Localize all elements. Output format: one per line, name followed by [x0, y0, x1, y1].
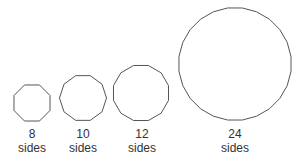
- octagon-shape: [14, 85, 50, 121]
- sides-text: sides: [58, 141, 108, 155]
- side-count: 8: [7, 127, 57, 141]
- side-count: 10: [58, 127, 108, 141]
- sides-text: sides: [210, 141, 260, 155]
- dodecagon-shape: [113, 65, 168, 120]
- label-10-sides: 10 sides: [58, 127, 108, 155]
- icositetragon-shape: [179, 8, 291, 120]
- label-8-sides: 8 sides: [7, 127, 57, 155]
- sides-text: sides: [117, 141, 167, 155]
- decagon-shape: [60, 76, 107, 121]
- side-count: 12: [117, 127, 167, 141]
- side-count: 24: [210, 127, 260, 141]
- sides-text: sides: [7, 141, 57, 155]
- label-12-sides: 12 sides: [117, 127, 167, 155]
- label-24-sides: 24 sides: [210, 127, 260, 155]
